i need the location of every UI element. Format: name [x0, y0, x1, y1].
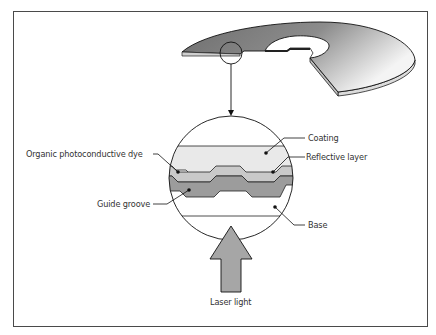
diagram-canvas: Coating Reflective layer Organic photoco…: [0, 0, 436, 335]
diagram-graphics: [0, 0, 436, 335]
label-base: Base: [308, 220, 327, 230]
disc: [182, 22, 415, 96]
cross-section: [160, 116, 300, 240]
label-reflective-layer: Reflective layer: [306, 152, 367, 162]
label-guide-groove: Guide groove: [97, 199, 150, 209]
label-organic-dye: Organic photoconductive dye: [26, 149, 143, 159]
pointer-arrow: [228, 64, 234, 116]
label-coating: Coating: [308, 133, 339, 143]
label-laser-light: Laser light: [210, 297, 251, 307]
